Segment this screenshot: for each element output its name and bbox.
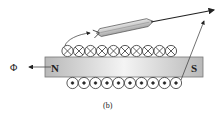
cross-symbol-icon (96, 45, 107, 56)
coil-bottom-row-dots (67, 77, 182, 88)
cross-symbol-icon (154, 45, 165, 56)
curved-arrow (65, 33, 90, 46)
dot-symbol-icon (170, 77, 181, 88)
dot-symbol-icon (113, 77, 124, 88)
cross-symbol-icon (108, 45, 119, 56)
dot-symbol-icon (159, 77, 170, 88)
dot-symbol-icon (90, 77, 101, 88)
dot-symbol-icon (147, 77, 158, 88)
cross-symbol-icon (62, 45, 73, 56)
bar-magnet (45, 57, 203, 77)
solenoid-diagram: N S Φ (b) (0, 0, 221, 121)
dot-symbol-icon (101, 77, 112, 88)
cross-symbol-icon (165, 45, 176, 56)
cross-symbol-icon (85, 45, 96, 56)
cross-symbol-icon (142, 45, 153, 56)
cross-symbol-icon (73, 45, 84, 56)
figure-caption: (b) (103, 101, 113, 110)
cross-symbol-icon (131, 45, 142, 56)
cross-symbol-icon (119, 45, 130, 56)
dot-symbol-icon (136, 77, 147, 88)
south-pole-label: S (191, 62, 197, 74)
dot-symbol-icon (124, 77, 135, 88)
dot-symbol-icon (67, 77, 78, 88)
north-pole-label: N (51, 62, 59, 74)
compass-needle-icon (93, 17, 154, 38)
flux-label: Φ (10, 62, 17, 73)
field-direction-arrow (151, 10, 214, 22)
coil-top-row-crosses (62, 45, 177, 56)
dot-symbol-icon (78, 77, 89, 88)
